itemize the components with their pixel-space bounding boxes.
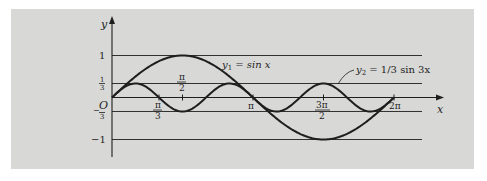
x-tick-2pi: 2π [389,101,401,111]
x-axis-arrow-icon [436,95,444,101]
y-tick-neg-third-den: 3 [100,113,104,121]
y1-annotation: y1 = sin x [221,59,271,72]
y-tick-third-den: 3 [100,84,104,92]
x-tick-pi3-den: 3 [155,111,161,121]
axes [109,16,444,157]
y-tick-neg-1: −1 [91,134,106,145]
chart-svg: y x 1 1 3 O − 3 −1 π 3 π 2 π 3π 2 2π y1 … [0,0,487,181]
y-axis-label: y [100,18,108,31]
x-tick-pi2-num: π [179,72,185,82]
x-tick-pi3-num: π [155,100,161,110]
x-tick-pi: π [248,101,254,111]
labels: y x 1 1 3 O − 3 −1 π 3 π 2 π 3π 2 2π y1 … [91,18,444,145]
y-tick-neg-third-sign: − [93,106,100,115]
y2-annotation: y2 = 1/3 sin 3x [355,64,430,77]
x-tick-pi2-den: 2 [179,83,185,93]
x-axis-label: x [437,103,444,116]
y-tick-1: 1 [99,50,105,61]
x-tick-3pi2-den: 2 [319,111,325,121]
y-tick-third-num: 1 [100,76,104,84]
x-tick-3pi2-num: 3π [316,100,328,110]
y2-leader-line [338,70,354,84]
origin-label: O [99,99,108,112]
y-axis-arrow-icon [109,16,115,24]
